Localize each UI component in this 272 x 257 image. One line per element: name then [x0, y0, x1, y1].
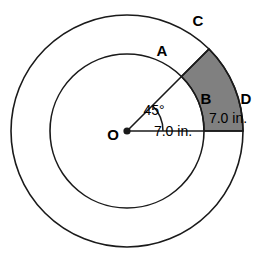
geometry-figure: A B C D O 45° 7.0 in. 7.0 in. — [0, 0, 272, 257]
inner-radius-measure-label: 7.0 in. — [154, 124, 192, 138]
figure-canvas — [0, 0, 272, 257]
angle-measure-label: 45° — [143, 103, 164, 117]
annulus-width-measure-label: 7.0 in. — [209, 111, 247, 125]
point-label-b: B — [201, 91, 212, 106]
center-point-dot — [123, 127, 130, 134]
point-label-o: O — [107, 127, 119, 142]
point-label-d: D — [241, 91, 252, 106]
point-label-c: C — [193, 13, 204, 28]
point-label-a: A — [157, 43, 168, 58]
